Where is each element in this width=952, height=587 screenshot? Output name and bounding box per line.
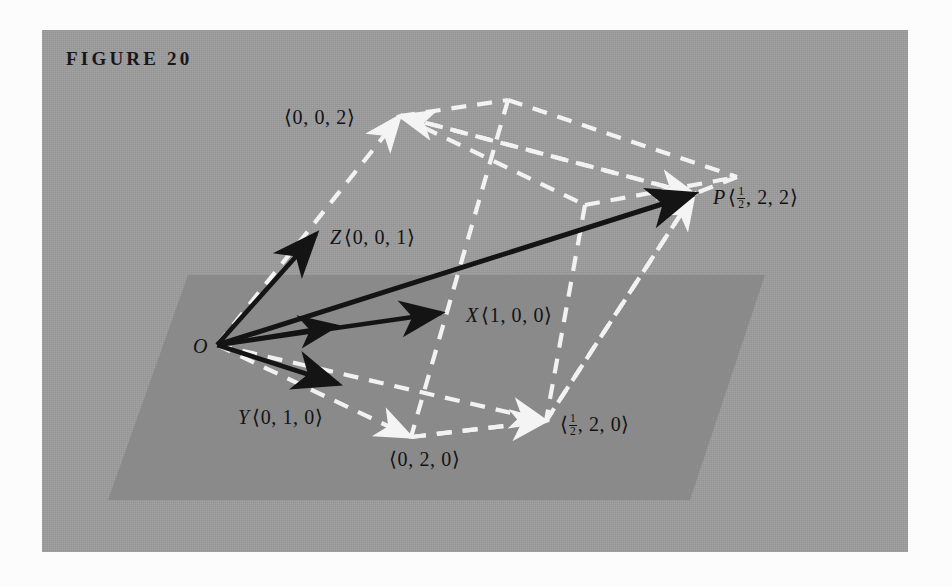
- fraction-numerator: 1: [569, 413, 577, 426]
- label-origin-symbol: O: [193, 335, 210, 357]
- label-z-double: ⟨0, 0, 2⟩: [284, 107, 355, 127]
- label-p-open-bracket: ⟨: [728, 186, 736, 208]
- fraction-numerator: 1: [737, 186, 745, 199]
- dashed-arrow-z2-to-p: [400, 116, 694, 194]
- dashed-arrow-p-to-z2: [400, 116, 694, 194]
- label-p-symbol: P: [713, 186, 728, 208]
- label-x-coords: ⟨1, 0, 0⟩: [481, 304, 552, 326]
- label-x-symbol: X: [466, 304, 481, 326]
- label-y-double: ⟨0, 2, 0⟩: [389, 449, 460, 469]
- label-p-half-fraction: 12: [737, 186, 745, 210]
- diagram-canvas: [0, 0, 952, 587]
- label-p-rest: , 2, 2⟩: [746, 186, 798, 208]
- edge-t-r: [508, 100, 737, 177]
- figure-root: FIGURE 20: [0, 0, 952, 587]
- label-z-coords: ⟨0, 0, 1⟩: [344, 226, 415, 248]
- fraction-denominator: 2: [569, 426, 577, 438]
- figure-caption: FIGURE 20: [66, 48, 192, 70]
- label-point-p: P⟨12, 2, 2⟩: [713, 186, 798, 210]
- label-y-coords: ⟨0, 1, 0⟩: [252, 406, 323, 428]
- label-x-axis: X⟨1, 0, 0⟩: [466, 305, 553, 325]
- label-z-axis: Z⟨0, 0, 1⟩: [330, 227, 416, 247]
- label-y-axis: Y⟨0, 1, 0⟩: [238, 407, 324, 427]
- edge-z2-t: [400, 100, 508, 116]
- label-y-symbol: Y: [238, 406, 252, 428]
- label-base-half-fraction: 12: [569, 413, 577, 437]
- label-z-symbol: Z: [330, 226, 344, 248]
- label-origin: O: [193, 336, 210, 356]
- fraction-denominator: 2: [737, 199, 745, 211]
- label-base-rest: , 2, 0⟩: [578, 413, 630, 435]
- label-base-half: ⟨12, 2, 0⟩: [560, 413, 630, 437]
- label-base-open-bracket: ⟨: [560, 413, 568, 435]
